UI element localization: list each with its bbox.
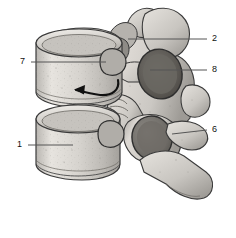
label-2: 2 [212, 34, 217, 43]
label-7: 7 [20, 57, 25, 66]
label-6: 6 [212, 125, 217, 134]
vertebrae-illustration [0, 0, 236, 238]
spinous-process-shape [140, 151, 213, 199]
label-8: 8 [212, 65, 217, 74]
anatomy-figure: 7 1 2 8 6 [0, 0, 236, 238]
lower-body-posterior-lip [98, 121, 124, 148]
upper-vertebral-body [36, 28, 126, 108]
lower-vertebral-body [36, 104, 124, 180]
label-1: 1 [17, 140, 22, 149]
